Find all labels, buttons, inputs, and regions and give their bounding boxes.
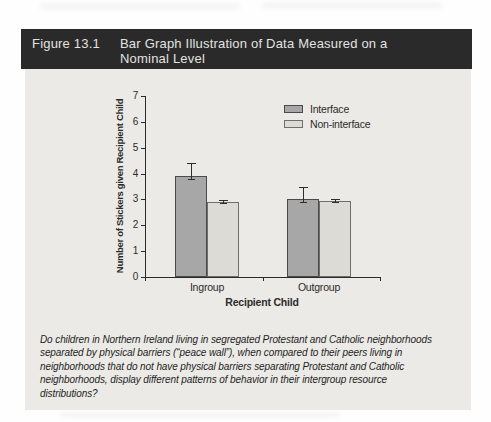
x-axis-title: Recipient Child [225, 296, 298, 308]
legend-swatch-interface [284, 105, 303, 113]
caption-line: neighborhoods, display different pattern… [40, 373, 465, 386]
y-tick-label: 6 [120, 116, 138, 127]
figure-title: Bar Graph Illustration of Data Measured … [120, 36, 388, 66]
legend-swatch-non-interface [284, 120, 303, 128]
legend-label-interface: Interface [310, 103, 349, 115]
chart-legend: Interface Non-interface [284, 104, 370, 134]
caption-line: neighborhoods that do not have physical … [40, 360, 465, 373]
error-bar-whisker [303, 187, 304, 203]
error-bar-cap-bottom [188, 179, 195, 180]
error-bar-cap-top [299, 187, 308, 188]
figure-title-line1: Bar Graph Illustration of Data Measured … [120, 36, 388, 51]
y-tick-mark [141, 225, 145, 226]
y-tick-mark [141, 122, 145, 123]
y-tick-label: 0 [120, 271, 138, 282]
y-tick-label: 5 [120, 142, 138, 153]
y-tick-mark [141, 199, 145, 200]
x-tick-mark [263, 277, 264, 281]
bar-interface-outgroup [287, 199, 319, 277]
y-axis-line [145, 96, 146, 277]
caption-line: separated by physical barriers (“peace w… [40, 346, 465, 359]
bar-chart: Number of Stickers given Recipient Child… [25, 69, 471, 329]
figure-caption: Do children in Northern Ireland living i… [40, 333, 465, 400]
bar-interface-ingroup [175, 176, 207, 277]
legend-item-non-interface: Non-interface [284, 119, 370, 128]
caption-line: distributions? [40, 387, 465, 400]
y-tick-label: 1 [120, 245, 138, 256]
figure-panel: Number of Stickers given Recipient Child… [25, 69, 471, 410]
bar-non-interface-outgroup [319, 201, 351, 277]
x-category-outgroup: Outgroup [298, 281, 340, 293]
legend-label-non-interface: Non-interface [310, 118, 370, 130]
legend-item-interface: Interface [284, 104, 370, 113]
error-bar-cap-bottom [300, 202, 307, 203]
figure-title-line2: Nominal Level [120, 51, 388, 66]
y-tick-label: 3 [120, 193, 138, 204]
error-bar-cap-top [187, 163, 196, 164]
error-bar-cap-top [331, 199, 340, 200]
error-bar-cap-bottom [332, 202, 339, 203]
bleed-through-artifact [262, 2, 442, 9]
y-tick-label: 2 [120, 219, 138, 230]
y-tick-mark [141, 174, 145, 175]
figure-number: Figure 13.1 [32, 36, 100, 51]
x-tick-mark [380, 277, 381, 281]
error-bar-cap-bottom [220, 203, 227, 204]
y-tick-label: 4 [120, 168, 138, 179]
book-page: Figure 13.1 Bar Graph Illustration of Da… [0, 0, 491, 422]
x-tick-mark [145, 277, 146, 281]
y-tick-mark [141, 148, 145, 149]
figure-titlebar: Figure 13.1 Bar Graph Illustration of Da… [21, 29, 472, 69]
bleed-through-artifact [60, 412, 340, 418]
y-tick-mark [141, 96, 145, 97]
caption-line: Do children in Northern Ireland living i… [40, 333, 465, 346]
error-bar-cap-top [219, 200, 228, 201]
error-bar-whisker [191, 163, 192, 179]
bar-non-interface-ingroup [207, 202, 239, 277]
y-tick-label: 7 [120, 90, 138, 101]
bleed-through-artifact [40, 3, 240, 10]
y-tick-mark [141, 251, 145, 252]
x-category-ingroup: Ingroup [190, 281, 224, 293]
